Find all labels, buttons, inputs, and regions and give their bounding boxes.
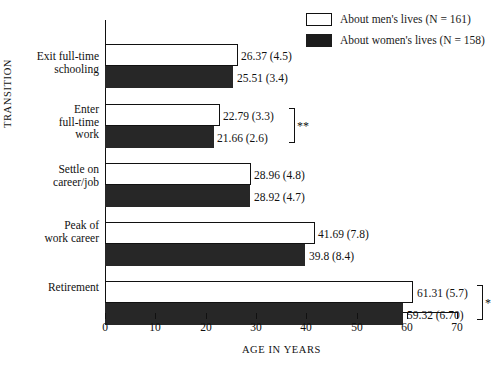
category-label-group: Exit full-time schooling Enter full-time… <box>0 0 99 371</box>
value-label-women-peak-career: 39.8 (8.4) <box>309 251 354 263</box>
bar-men-retirement <box>105 281 413 303</box>
value-label-men-exit-schooling: 26.37 (4.5) <box>241 51 292 63</box>
category-label-enter-work: Enter full-time work <box>7 103 99 141</box>
tick-mark-0 <box>105 313 106 319</box>
significance-marker-enter-work: ** <box>297 120 309 132</box>
bar-women-exit-schooling <box>105 66 233 88</box>
bar-men-peak-career <box>105 222 315 244</box>
category-label-retirement: Retirement <box>7 281 99 294</box>
bar-men-settle-career <box>105 163 251 185</box>
tick-label-20: 20 <box>200 321 212 333</box>
tick-mark-50 <box>357 313 358 319</box>
tick-mark-60 <box>407 313 408 319</box>
tick-label-10: 10 <box>149 321 161 333</box>
tick-label-40: 40 <box>300 321 312 333</box>
category-label-settle-career: Settle on career/job <box>7 163 99 188</box>
tick-mark-70 <box>457 313 458 319</box>
bar-women-enter-work <box>105 126 214 148</box>
x-axis-title: AGE IN YEARS <box>105 344 458 355</box>
y-axis-title: TRANSITION <box>2 59 13 128</box>
tick-label-60: 60 <box>401 321 413 333</box>
chart-container: About men's lives (N = 161) About women'… <box>0 0 498 371</box>
value-label-women-exit-schooling: 25.51 (3.4) <box>237 73 288 85</box>
value-label-women-enter-work: 21.66 (2.6) <box>217 133 268 145</box>
value-label-men-enter-work: 22.79 (3.3) <box>223 111 274 123</box>
tick-label-30: 30 <box>250 321 262 333</box>
category-label-peak-career: Peak of work career <box>7 219 99 244</box>
value-label-men-peak-career: 41.69 (7.8) <box>318 229 369 241</box>
significance-bracket-retirement <box>477 285 483 320</box>
significance-marker-retirement: * <box>485 297 491 309</box>
bar-women-settle-career <box>105 185 250 207</box>
plot-area: 26.37 (4.5) 25.51 (3.4) 22.79 (3.3) 21.6… <box>105 20 457 312</box>
value-label-women-retirement: 59.32 (6.70) <box>407 310 464 322</box>
tick-mark-30 <box>256 313 257 319</box>
tick-mark-20 <box>206 313 207 319</box>
bar-men-enter-work <box>105 104 220 126</box>
tick-label-0: 0 <box>102 321 108 333</box>
tick-label-70: 70 <box>451 321 463 333</box>
category-label-exit-schooling: Exit full-time schooling <box>7 50 99 75</box>
tick-mark-40 <box>306 313 307 319</box>
value-label-women-settle-career: 28.92 (4.7) <box>254 192 305 204</box>
bar-women-peak-career <box>105 244 305 266</box>
tick-mark-10 <box>155 313 156 319</box>
value-label-men-retirement: 61.31 (5.7) <box>417 288 468 300</box>
bar-men-exit-schooling <box>105 44 238 66</box>
value-label-men-settle-career: 28.96 (4.8) <box>254 170 305 182</box>
tick-label-50: 50 <box>351 321 363 333</box>
significance-bracket-enter-work <box>289 108 295 143</box>
